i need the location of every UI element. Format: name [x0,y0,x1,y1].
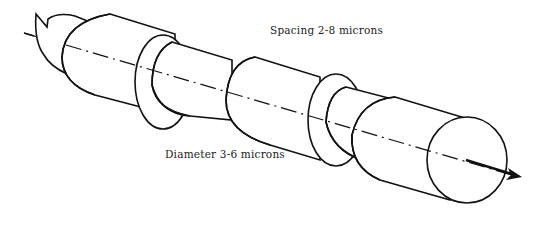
collar-1 [135,35,232,129]
diameter-label: Diameter 3-6 microns [165,148,285,160]
axis-lead [24,33,34,36]
sheath-segment-2 [226,57,320,160]
spacing-label: Spacing 2-8 microns [270,24,383,36]
sheath-segment-3 [352,97,507,203]
axis-overlay [66,45,512,175]
